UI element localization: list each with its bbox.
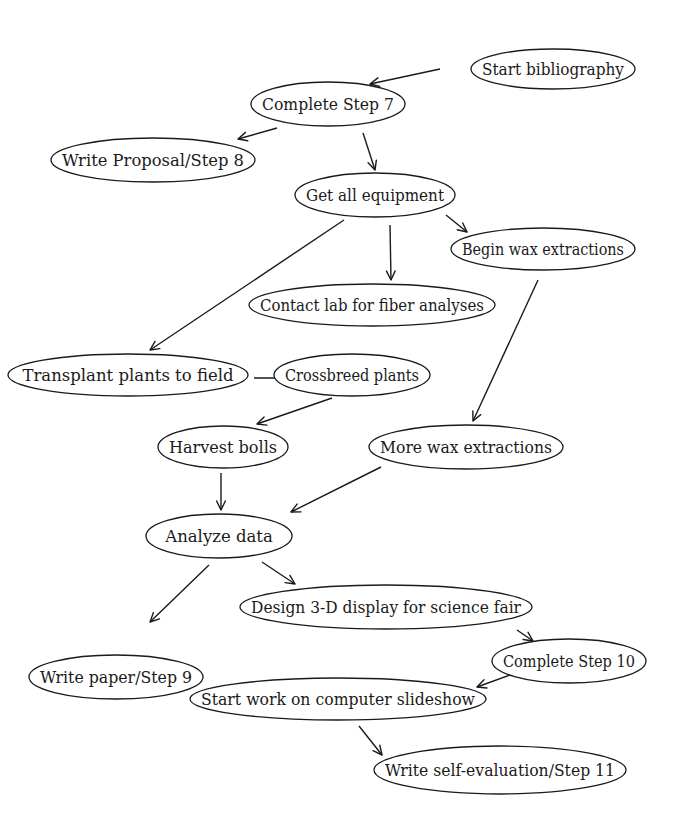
arrowhead-icon (285, 575, 295, 584)
node-label: Start work on computer slideshow (201, 690, 475, 709)
connector-line (390, 225, 391, 280)
edge-get-all-equipment-to-transplant-plants (150, 220, 344, 350)
connector-line (257, 398, 332, 424)
node-design-3d-display: Design 3-D display for science fair (240, 585, 532, 629)
connector-line (150, 565, 209, 622)
node-label: Crossbreed plants (285, 366, 419, 385)
arrowhead-icon (523, 632, 533, 641)
edge-crossbreed-plants-to-harvest-bolls (257, 398, 332, 425)
connector-line (150, 220, 344, 350)
connector-line (262, 562, 295, 584)
node-label: Complete Step 7 (262, 95, 394, 114)
edge-design-3d-display-to-complete-step-10 (517, 630, 533, 641)
node-start-bibliography: Start bibliography (471, 49, 635, 89)
node-get-all-equipment: Get all equipment (295, 173, 455, 217)
edge-analyze-data-to-design-3d-display (262, 562, 295, 584)
edge-complete-step-10-to-start-slideshow (477, 674, 513, 688)
arrowhead-icon (150, 341, 160, 350)
node-write-proposal-step-8: Write Proposal/Step 8 (51, 138, 255, 182)
node-label: Write Proposal/Step 8 (62, 151, 244, 170)
node-begin-wax-extractions: Begin wax extractions (451, 228, 635, 270)
connector-line (370, 69, 440, 84)
node-start-slideshow: Start work on computer slideshow (190, 678, 486, 720)
edge-analyze-data-to-write-paper-step-9 (150, 565, 209, 622)
node-label: More wax extractions (380, 438, 552, 457)
edge-get-all-equipment-to-begin-wax-extractions (446, 215, 467, 232)
node-crossbreed-plants: Crossbreed plants (274, 354, 430, 396)
connector-line (291, 467, 381, 512)
node-label: Write self-evaluation/Step 11 (385, 761, 615, 780)
node-label: Complete Step 10 (503, 652, 635, 671)
node-label: Begin wax extractions (462, 240, 624, 259)
edge-more-wax-extractions-to-analyze-data (291, 467, 381, 512)
node-label: Transplant plants to field (22, 366, 234, 385)
node-label: Write paper/Step 9 (40, 668, 192, 687)
edge-start-bibliography-to-complete-step-7 (370, 69, 440, 86)
node-write-self-evaluation: Write self-evaluation/Step 11 (374, 746, 626, 794)
flowchart-diagram: Start bibliographyComplete Step 7Write P… (0, 0, 699, 830)
node-label: Start bibliography (482, 60, 625, 79)
edge-get-all-equipment-to-contact-lab (386, 225, 395, 280)
nodes-layer: Start bibliographyComplete Step 7Write P… (8, 49, 646, 794)
node-more-wax-extractions: More wax extractions (369, 425, 563, 469)
node-complete-step-10: Complete Step 10 (492, 639, 646, 683)
node-label: Harvest bolls (169, 438, 277, 457)
node-write-paper-step-9: Write paper/Step 9 (29, 655, 203, 699)
node-label: Contact lab for fiber analyses (260, 296, 484, 315)
edge-complete-step-7-to-write-proposal-step-8 (238, 128, 277, 141)
edge-start-slideshow-to-write-self-evaluation (359, 726, 382, 755)
edge-harvest-bolls-to-analyze-data (217, 473, 226, 510)
edge-complete-step-7-to-get-all-equipment (363, 133, 376, 170)
connector-line (359, 726, 382, 755)
node-contact-lab: Contact lab for fiber analyses (249, 284, 495, 326)
node-harvest-bolls: Harvest bolls (158, 426, 288, 468)
connector-line (446, 215, 467, 232)
node-label: Analyze data (164, 527, 273, 546)
node-label: Design 3-D display for science fair (251, 598, 521, 617)
node-analyze-data: Analyze data (146, 514, 292, 558)
node-complete-step-7: Complete Step 7 (251, 82, 405, 126)
node-label: Get all equipment (306, 186, 444, 205)
node-transplant-plants: Transplant plants to field (8, 354, 248, 396)
